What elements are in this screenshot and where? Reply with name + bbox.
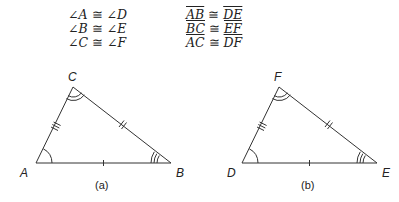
vertex-label-f: F: [274, 70, 282, 84]
caption-a: (a): [95, 179, 108, 191]
angle-d-arc: [249, 149, 258, 163]
vertex-label-e: E: [382, 166, 391, 180]
vertex-label-d: D: [227, 166, 236, 180]
triangle-a: [36, 87, 171, 166]
angle-a-arc: [43, 149, 52, 163]
triangles-figure: A B C (a) D E F (b): [0, 0, 399, 202]
vertex-label-a: A: [19, 166, 28, 180]
vertex-label-b: B: [176, 166, 184, 180]
triangle-b: [242, 87, 377, 166]
vertex-label-c: C: [68, 70, 77, 84]
caption-b: (b): [301, 179, 314, 191]
triangle-a-outline: [36, 87, 171, 163]
triangle-b-outline: [242, 87, 377, 163]
